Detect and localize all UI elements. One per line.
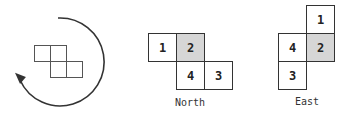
- tetromino-cell: [50, 61, 67, 78]
- north-cell-2-pivot: 2: [176, 33, 205, 62]
- north-cell-1: 1: [148, 33, 177, 62]
- orientation-label-east: East: [295, 96, 319, 107]
- east-cell-3: 3: [278, 61, 307, 90]
- east-cell-2-pivot: 2: [306, 33, 335, 62]
- cell-number: 3: [289, 69, 296, 83]
- tetromino-cell: [66, 61, 83, 78]
- orientation-label-north: North: [175, 97, 205, 108]
- north-cell-4: 4: [176, 61, 205, 90]
- north-cell-3: 3: [204, 61, 233, 90]
- cell-number: 1: [317, 13, 324, 27]
- east-cell-4: 4: [278, 33, 307, 62]
- cell-number: 4: [187, 69, 194, 83]
- cell-number: 1: [159, 41, 166, 55]
- cell-number: 4: [289, 41, 296, 55]
- east-cell-1: 1: [306, 5, 335, 34]
- tetromino-cell: [50, 45, 67, 62]
- cell-number: 3: [215, 69, 222, 83]
- cell-number: 2: [187, 41, 194, 55]
- tetromino-cell: [34, 45, 51, 62]
- cell-number: 2: [317, 41, 324, 55]
- tetromino-rotation-diagram: 1 2 4 3 North 1 4 2 3 East: [0, 0, 353, 117]
